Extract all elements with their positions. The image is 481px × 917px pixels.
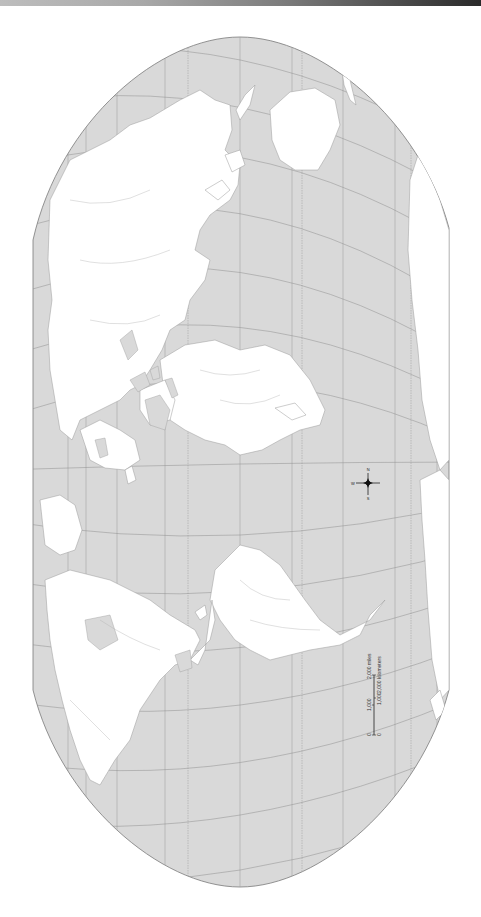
compass-south-label: S bbox=[367, 496, 370, 501]
scale-miles-2000: 2,000 miles bbox=[366, 653, 372, 679]
compass-west-label: W bbox=[351, 481, 355, 486]
scale-km-0: 0 bbox=[376, 733, 382, 736]
scale-km-1000: 1,000 bbox=[376, 692, 382, 705]
scale-km-2000: 2,000 kilometers bbox=[376, 656, 382, 693]
world-map: W N S 0 1,000 2,000 miles 0 1,000 2,000 … bbox=[0, 0, 481, 917]
compass-north-label: N bbox=[367, 467, 370, 472]
scale-miles-0: 0 bbox=[366, 733, 372, 736]
scale-miles-1000: 1,000 bbox=[366, 698, 372, 711]
